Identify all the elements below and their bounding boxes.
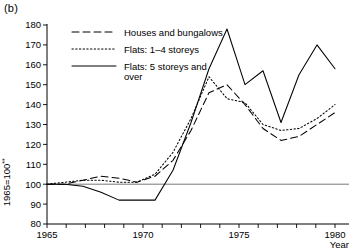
y-tick-label: 80: [30, 218, 41, 229]
legend-label-0: Houses and bungalows: [124, 27, 223, 38]
chart-figure: (b) 180170160150140130120110100908019651…: [0, 0, 357, 252]
y-tick-label: 170: [25, 39, 41, 50]
y-tick-label: 160: [25, 59, 41, 70]
y-tick-label: 140: [25, 99, 41, 110]
legend-label-2: Flats: 5 storeys and: [124, 61, 207, 72]
y-tick-label: 150: [25, 79, 41, 90]
y-tick-label: 130: [25, 119, 41, 130]
x-tick-label: 1970: [132, 229, 153, 240]
series-line-2: [47, 29, 335, 200]
y-tick-label: 120: [25, 139, 41, 150]
x-tick-label: 1965: [36, 229, 57, 240]
y-tick-label: 110: [26, 159, 41, 170]
y-tick-label: 180: [25, 19, 41, 30]
line-chart-svg: 1801701601501401301201101009080196519701…: [0, 0, 357, 252]
y-axis-label: 1965=100**: [1, 158, 12, 206]
y-tick-label: 100: [25, 179, 41, 190]
y-tick-label: 90: [30, 199, 41, 210]
x-tick-label: 1975: [228, 229, 249, 240]
legend-label-1: Flats: 1–4 storeys: [124, 44, 199, 55]
x-axis-label: Year: [330, 239, 349, 250]
legend-label-2-cont: over: [124, 71, 142, 82]
series-line-0: [47, 85, 335, 185]
